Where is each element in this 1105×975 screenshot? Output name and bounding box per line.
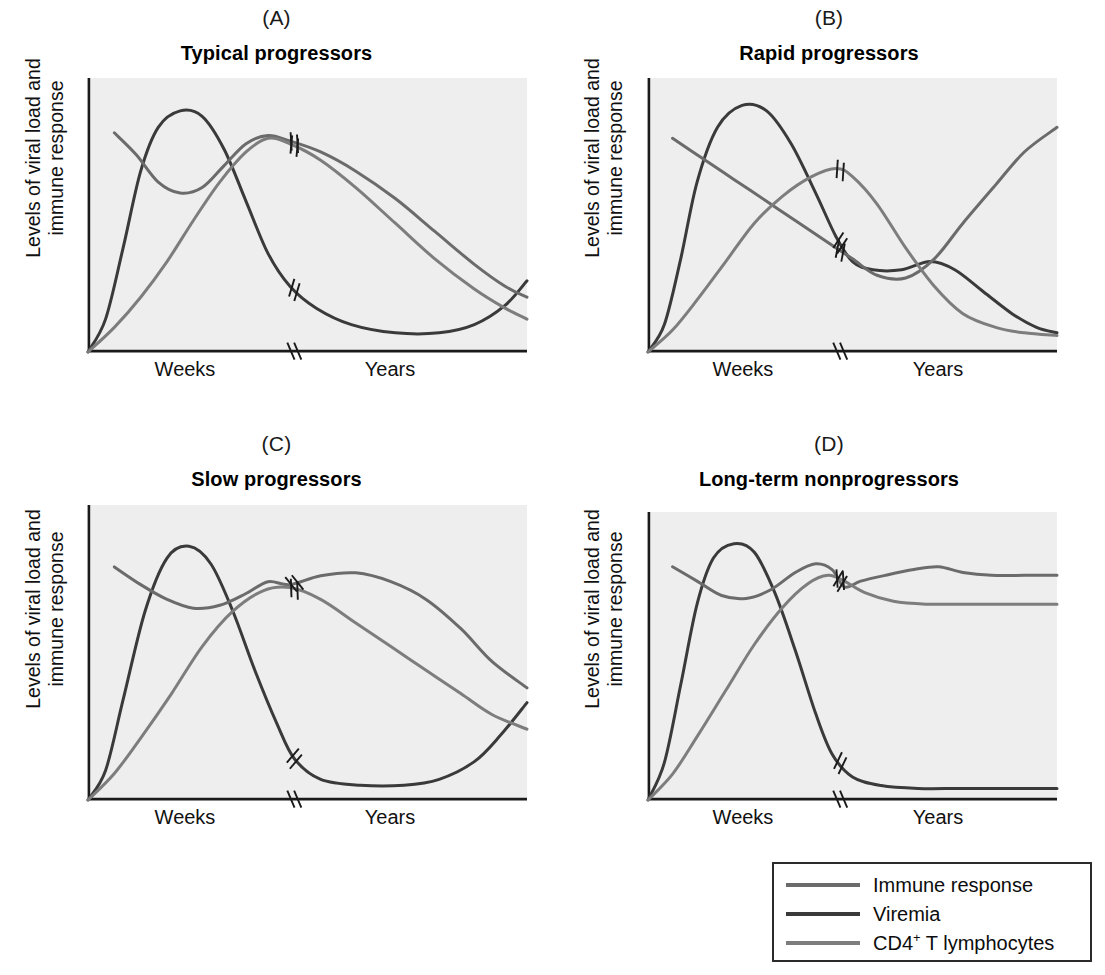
y-axis-label-line2: immune response xyxy=(604,502,627,717)
legend-swatch-cd4-t-lymphocytes xyxy=(786,941,860,945)
y-axis-label-line1: Levels of viral load and xyxy=(581,502,604,717)
panel-d-xtick-years: Years xyxy=(883,806,993,829)
panel-c-plot xyxy=(88,505,527,800)
panel-c-xtick-years: Years xyxy=(335,806,445,829)
panel-a-curves xyxy=(88,78,527,352)
panel-b-letter: (B) xyxy=(553,6,1105,30)
panel-d-xtick-weeks: Weeks xyxy=(688,806,798,829)
panel-c-letter: (C) xyxy=(0,432,553,456)
y-axis-label-line1: Levels of viral load and xyxy=(22,502,45,717)
legend-cd4-base: CD4 xyxy=(873,932,913,954)
panel-d-letter: (D) xyxy=(553,432,1105,456)
panel-b-curves xyxy=(648,78,1057,352)
panel-d-title: Long-term nonprogressors xyxy=(553,468,1105,491)
panel-b-y-axis-label: Levels of viral load and immune response xyxy=(581,51,627,266)
panel-a-xtick-years: Years xyxy=(335,358,445,381)
y-axis-label-line2: immune response xyxy=(604,51,627,266)
legend-cd4-superscript: + xyxy=(913,930,921,945)
panel-c-title: Slow progressors xyxy=(0,468,553,491)
panel-c-curves xyxy=(88,505,527,800)
legend-label-cd4-t-lymphocytes: CD4+ T lymphocytes xyxy=(873,933,1054,953)
legend: Immune response Viremia CD4+ T lymphocyt… xyxy=(772,862,1092,962)
legend-item-viremia: Viremia xyxy=(774,899,1090,928)
panel-a-title: Typical progressors xyxy=(0,42,553,65)
panel-c: (C) Slow progressors Levels of viral loa… xyxy=(0,400,553,830)
panel-c-y-axis-label: Levels of viral load and immune response xyxy=(22,502,68,717)
panel-b-title: Rapid progressors xyxy=(553,42,1105,65)
panel-b: (B) Rapid progressors Levels of viral lo… xyxy=(553,0,1105,400)
legend-item-immune-response: Immune response xyxy=(774,870,1090,899)
y-axis-label-line2: immune response xyxy=(45,51,68,266)
panel-c-xtick-weeks: Weeks xyxy=(130,806,240,829)
panel-a-letter: (A) xyxy=(0,6,553,30)
panel-a-xtick-weeks: Weeks xyxy=(130,358,240,381)
panel-b-plot xyxy=(648,78,1057,352)
panel-d-curves xyxy=(648,512,1057,800)
y-axis-label-line1: Levels of viral load and xyxy=(581,51,604,266)
panel-d-y-axis-label: Levels of viral load and immune response xyxy=(581,502,627,717)
panel-b-xtick-years: Years xyxy=(883,358,993,381)
panel-a-plot xyxy=(88,78,527,352)
legend-swatch-viremia xyxy=(786,912,860,916)
legend-swatch-immune-response xyxy=(786,883,860,887)
legend-cd4-rest: T lymphocytes xyxy=(921,932,1055,954)
y-axis-label-line2: immune response xyxy=(45,502,68,717)
legend-item-cd4-t-lymphocytes: CD4+ T lymphocytes xyxy=(774,928,1090,957)
legend-label-viremia: Viremia xyxy=(873,904,940,924)
panel-d-plot xyxy=(648,512,1057,800)
panel-a: (A) Typical progressors Levels of viral … xyxy=(0,0,553,400)
legend-label-immune-response: Immune response xyxy=(873,875,1033,895)
panel-a-y-axis-label: Levels of viral load and immune response xyxy=(22,51,68,266)
panel-d: (D) Long-term nonprogressors Levels of v… xyxy=(553,400,1105,830)
y-axis-label-line1: Levels of viral load and xyxy=(22,51,45,266)
panel-b-xtick-weeks: Weeks xyxy=(688,358,798,381)
